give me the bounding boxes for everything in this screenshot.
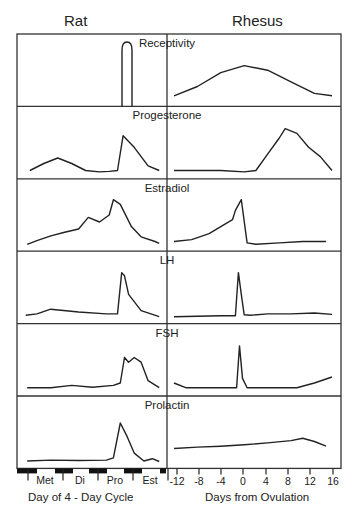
rhesus-tick-label: -8 <box>194 475 203 487</box>
rhesus-x-axis-title: Days from Ovulation <box>205 491 309 503</box>
rhesus-lh-curve <box>174 273 332 317</box>
rhesus-tick-label: 16 <box>327 475 339 487</box>
panel-label-estradiol: Estradiol <box>145 182 190 194</box>
rhesus-tick-label: 12 <box>304 475 316 487</box>
rhesus-fsh-curve <box>174 346 332 388</box>
rhesus-estradiol-curve <box>174 200 326 245</box>
rat-tick-label: Met <box>36 474 54 486</box>
rat-fsh-curve <box>27 358 159 388</box>
rat-tick-label: Di <box>75 474 85 486</box>
cycle-bar <box>160 468 166 473</box>
rhesus-receptivity-curve <box>174 66 332 96</box>
panel-label-fsh: FSH <box>156 327 179 339</box>
rat-x-axis-title: Day of 4 - Day Cycle <box>28 491 133 503</box>
rat-estradiol-curve <box>27 200 159 245</box>
rhesus-tick-label: -12 <box>169 475 184 487</box>
panel-label-receptivity: Receptivity <box>139 37 195 49</box>
rat-receptivity-curve <box>122 42 132 106</box>
panel-label-progesterone: Progesterone <box>132 109 201 121</box>
rhesus-prolactin-curve <box>174 438 326 448</box>
rhesus-tick-label: 8 <box>285 475 291 487</box>
rhesus-tick-label: 4 <box>263 475 269 487</box>
cycle-bar <box>17 468 37 473</box>
panel-label-prolactin: Prolactin <box>145 399 190 411</box>
rat-prolactin-curve <box>27 423 159 462</box>
rhesus-tick-label: -4 <box>216 475 225 487</box>
cycle-bar <box>55 468 73 473</box>
rat-tick-label: Est <box>142 474 157 486</box>
panel-label-lh: LH <box>160 254 175 266</box>
rat-tick-label: Pro <box>107 474 124 486</box>
rat-progesterone-curve <box>30 136 159 172</box>
hormone-chart: ReceptivityProgesteroneEstradiolLHFSHPro… <box>0 0 360 521</box>
rhesus-progesterone-curve <box>174 129 332 172</box>
rhesus-tick-label: 0 <box>240 475 246 487</box>
rat-lh-curve <box>26 273 159 317</box>
